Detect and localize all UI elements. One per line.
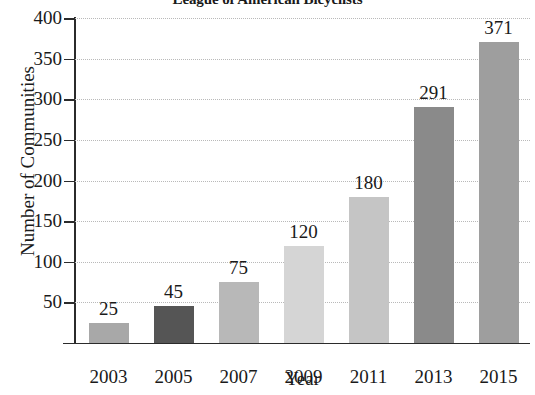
plot-area: 40035030025020015010050 2520034520057520… — [75, 18, 530, 343]
bar[interactable] — [414, 107, 454, 343]
y-tick-label: 200 — [34, 170, 63, 192]
y-tick-mark — [64, 302, 75, 304]
bar-group: 2912013 — [401, 18, 466, 343]
bar-group: 252003 — [76, 18, 141, 343]
y-tick-mark — [64, 221, 75, 223]
y-tick-label: 300 — [34, 88, 63, 110]
bar-value-label: 45 — [141, 281, 206, 303]
bar[interactable] — [219, 282, 259, 343]
bar-group: 1202009 — [271, 18, 336, 343]
y-tick-mark — [64, 18, 75, 20]
bar-value-label: 25 — [76, 298, 141, 320]
bar-chart: League of American Bicyclists Number of … — [0, 0, 535, 395]
y-tick-mark — [64, 99, 75, 101]
bar-value-label: 75 — [206, 257, 271, 279]
y-tick-mark — [64, 59, 75, 61]
bar[interactable] — [284, 246, 324, 344]
bar-value-label: 120 — [271, 221, 336, 243]
y-tick-label: 100 — [34, 251, 63, 273]
y-tick-label: 250 — [34, 129, 63, 151]
chart-title: League of American Bicyclists — [0, 0, 535, 8]
bar-group: 752007 — [206, 18, 271, 343]
y-tick-mark — [64, 140, 75, 142]
bar[interactable] — [349, 197, 389, 343]
bar[interactable] — [89, 323, 129, 343]
y-tick-mark — [64, 181, 75, 183]
bar[interactable] — [479, 42, 519, 343]
y-tick-label: 50 — [43, 291, 62, 313]
bar-group: 452005 — [141, 18, 206, 343]
y-tick-label: 150 — [34, 210, 63, 232]
y-tick-mark — [64, 262, 75, 264]
y-tick-label: 400 — [34, 7, 63, 29]
x-axis-title: Year — [75, 368, 530, 390]
y-tick-label: 350 — [34, 48, 63, 70]
bar-group: 1802011 — [336, 18, 401, 343]
bar-value-label: 371 — [466, 17, 531, 39]
bar-value-label: 291 — [401, 82, 466, 104]
bar[interactable] — [154, 306, 194, 343]
bar-group: 3712015 — [466, 18, 531, 343]
bar-value-label: 180 — [336, 172, 401, 194]
